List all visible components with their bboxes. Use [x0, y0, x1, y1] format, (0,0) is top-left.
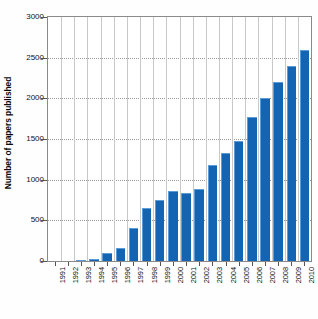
bar — [260, 98, 269, 261]
bar — [208, 165, 217, 261]
x-axis-tick-label: 2006 — [255, 267, 264, 283]
x-axis-tick-mark — [107, 262, 108, 266]
x-axis-tick-label: 1992 — [71, 267, 80, 283]
bar — [142, 208, 151, 261]
bar — [116, 248, 125, 261]
bar-chart: Number of papers published 0500100015002… — [0, 0, 318, 319]
y-axis-tick-mark — [41, 98, 47, 99]
x-axis-tick-label: 2003 — [215, 267, 224, 283]
bar — [155, 200, 164, 261]
x-axis-tick-mark — [55, 262, 56, 266]
x-axis-tick-mark — [120, 262, 121, 266]
y-axis-title-text: Number of papers published — [3, 77, 13, 190]
x-axis-tick-label: 2009 — [294, 267, 303, 283]
y-axis-tick-labels: 050010001500200025003000 — [14, 10, 44, 266]
x-axis-tick-label: 2001 — [189, 267, 198, 283]
bar — [181, 193, 190, 261]
x-axis-tick-mark — [239, 262, 240, 266]
x-axis-tick-label: 2004 — [229, 267, 238, 283]
x-axis-tick-labels: 1991199219931994199519961997199819992000… — [47, 267, 312, 307]
x-axis-tick-label: 2005 — [242, 267, 251, 283]
y-axis-tick-mark — [41, 220, 47, 221]
x-axis-tick-label: 1994 — [97, 267, 106, 283]
x-axis-tick-mark — [252, 262, 253, 266]
x-axis-tick-mark — [199, 262, 200, 266]
y-axis-tick-label: 1500 — [14, 133, 44, 145]
x-axis-tick-mark — [173, 262, 174, 266]
y-axis-tick-mark — [41, 139, 47, 140]
x-axis-tick-label: 1999 — [163, 267, 172, 283]
y-axis-tick-label: 2000 — [14, 92, 44, 104]
x-axis-tick-mark — [304, 262, 305, 266]
x-axis-tick-mark — [94, 262, 95, 266]
x-axis-tick-mark — [278, 262, 279, 266]
x-axis-tick-mark — [226, 262, 227, 266]
bar — [194, 189, 203, 261]
x-axis-tick-label: 2000 — [176, 267, 185, 283]
bar — [234, 141, 243, 261]
x-axis-tick-label: 2008 — [281, 267, 290, 283]
x-axis-tick-label: 1993 — [84, 267, 93, 283]
y-axis-tick-mark — [41, 17, 47, 18]
x-axis-tick-label: 1998 — [150, 267, 159, 283]
bar — [129, 228, 138, 261]
x-axis-tick-mark — [265, 262, 266, 266]
bar — [273, 82, 282, 261]
bar-series — [48, 17, 311, 261]
bar — [221, 153, 230, 261]
bar — [168, 191, 177, 261]
bar — [102, 253, 111, 261]
x-axis-tick-mark — [81, 262, 82, 266]
x-axis-tick-mark — [160, 262, 161, 266]
y-axis-tick-mark — [41, 261, 47, 262]
x-axis-tick-label: 1996 — [123, 267, 132, 283]
bar — [247, 117, 256, 261]
y-axis-tick-label: 0 — [14, 255, 44, 267]
x-axis-tick-label: 2007 — [268, 267, 277, 283]
x-axis-tick-mark — [186, 262, 187, 266]
y-axis-tick-mark — [41, 180, 47, 181]
x-axis-tick-mark — [68, 262, 69, 266]
x-axis-tick-label: 1995 — [110, 267, 119, 283]
x-axis-tick-mark — [147, 262, 148, 266]
bar — [287, 66, 296, 261]
x-axis-tick-label: 1991 — [58, 267, 67, 283]
y-axis-tick-mark — [41, 58, 47, 59]
plot-area — [47, 16, 312, 262]
x-axis-tick-mark — [133, 262, 134, 266]
bar — [300, 50, 309, 261]
bar — [89, 259, 98, 261]
x-axis-tick-mark — [291, 262, 292, 266]
y-axis-tick-label: 1000 — [14, 174, 44, 186]
x-axis-tick-label: 2002 — [202, 267, 211, 283]
bar — [76, 260, 85, 261]
x-axis-tick-label: 2010 — [307, 267, 316, 283]
x-axis-tick-mark — [212, 262, 213, 266]
y-axis-tick-label: 500 — [14, 214, 44, 226]
y-axis-tick-label: 3000 — [14, 11, 44, 23]
y-axis-tick-label: 2500 — [14, 52, 44, 64]
x-axis-tick-label: 1997 — [136, 267, 145, 283]
